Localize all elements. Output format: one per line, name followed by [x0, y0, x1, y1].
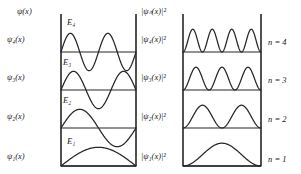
left-level-label-psi2: ψ₂(x)	[7, 112, 25, 121]
energy-label-e3: E₃	[63, 58, 71, 67]
energy-label-e2: E₂	[63, 96, 71, 105]
left-panel-axis-label: ψ(x)	[17, 7, 32, 16]
curve-right-n2	[183, 105, 261, 128]
right-panel-axis-label: |ψₙ(x)|²	[141, 7, 166, 16]
panel-right	[183, 14, 261, 166]
curve-right-n4	[183, 29, 261, 52]
quantum-number-label-n4: n = 4	[268, 38, 287, 47]
left-level-label-psi4: ψ₄(x)	[7, 35, 25, 44]
right-level-label-prob3: |ψ₃(x)|²	[141, 73, 166, 82]
quantum-number-label-n3: n = 3	[268, 76, 287, 85]
quantum-well-figure	[0, 0, 301, 174]
curve-right-n1	[183, 143, 261, 166]
right-level-label-prob1: |ψ₁(x)|²	[141, 152, 166, 161]
quantum-number-label-n2: n = 2	[268, 115, 287, 124]
left-level-label-psi1: ψ₁(x)	[7, 152, 25, 161]
figure-canvas	[0, 0, 301, 174]
right-level-label-prob4: |ψ₄(x)|²	[141, 35, 166, 44]
quantum-number-label-n1: n = 1	[268, 155, 287, 164]
right-level-label-prob2: |ψ₂(x)|²	[141, 112, 166, 121]
energy-label-e4: E₄	[67, 18, 75, 27]
curve-left-n1	[61, 147, 136, 166]
energy-label-e1: E₁	[67, 137, 75, 146]
curve-right-n3	[183, 67, 261, 90]
left-level-label-psi3: ψ₃(x)	[7, 73, 25, 82]
